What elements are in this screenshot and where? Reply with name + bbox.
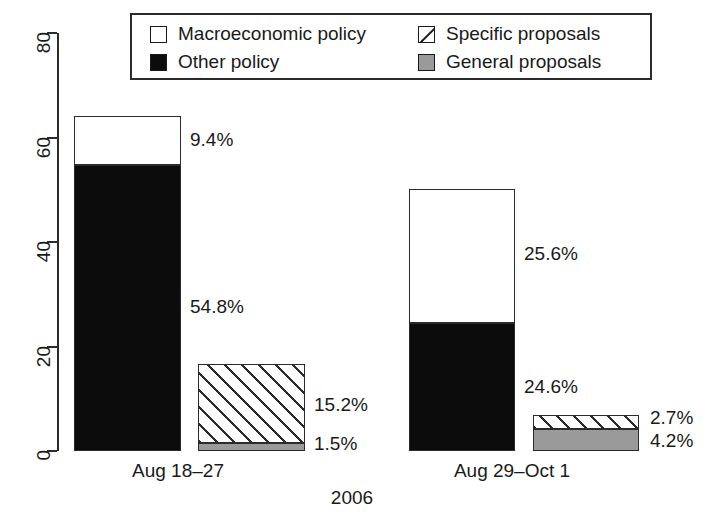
legend-label-macroeconomic-policy: Macroeconomic policy: [178, 23, 366, 45]
legend-label-other-policy: Other policy: [178, 51, 279, 73]
chart-figure: 80 60 40 20 0 Macroeconomic policy Speci…: [0, 0, 704, 521]
bar-segment-other-policy: [409, 323, 515, 451]
y-tick-label-60: 60: [33, 137, 55, 158]
bar-group2-proposals: [533, 415, 639, 451]
y-tick-label-0: 0: [33, 450, 55, 461]
value-label-9-4: 9.4%: [190, 129, 233, 151]
y-tick-label-40: 40: [33, 241, 55, 262]
value-label-2-7: 2.7%: [650, 407, 693, 429]
legend-entry-other-policy: Other policy: [150, 51, 418, 73]
black-square-icon: [150, 54, 167, 71]
y-tick-label-80: 80: [33, 32, 55, 53]
legend-label-specific-proposals: Specific proposals: [446, 23, 600, 45]
legend-entry-macroeconomic-policy: Macroeconomic policy: [150, 23, 418, 45]
legend-entry-general-proposals: General proposals: [418, 51, 650, 73]
bar-segment-other-policy: [74, 165, 181, 451]
x-category-label-aug-18-27: Aug 18–27: [88, 460, 268, 482]
x-category-label-aug-29-oct-1: Aug 29–Oct 1: [418, 460, 606, 482]
bar-segment-general-proposals: [198, 443, 305, 451]
bar-segment-macroeconomic-policy: [74, 116, 181, 165]
bar-group2-policy: [409, 189, 515, 451]
x-axis-title: 2006: [0, 487, 704, 509]
bar-segment-macroeconomic-policy: [409, 189, 515, 323]
bar-segment-specific-proposals: [198, 364, 305, 443]
value-label-24-6: 24.6%: [524, 376, 578, 398]
bar-group1-proposals: [198, 364, 305, 451]
value-label-25-6: 25.6%: [524, 243, 578, 265]
bar-segment-general-proposals: [533, 429, 639, 451]
bar-group1-policy: [74, 116, 181, 451]
value-label-15-2: 15.2%: [314, 394, 368, 416]
y-tick-label-20: 20: [33, 346, 55, 367]
value-label-4-2: 4.2%: [650, 430, 693, 452]
hatched-square-icon: [418, 26, 435, 43]
chart-legend: Macroeconomic policy Specific proposals …: [130, 13, 652, 80]
bar-segment-specific-proposals: [533, 415, 639, 429]
y-axis-line: [57, 33, 59, 451]
value-label-1-5: 1.5%: [314, 433, 357, 455]
legend-label-general-proposals: General proposals: [446, 51, 601, 73]
gray-square-icon: [418, 54, 435, 71]
legend-entry-specific-proposals: Specific proposals: [418, 23, 650, 45]
white-square-icon: [150, 26, 167, 43]
value-label-54-8: 54.8%: [190, 296, 244, 318]
